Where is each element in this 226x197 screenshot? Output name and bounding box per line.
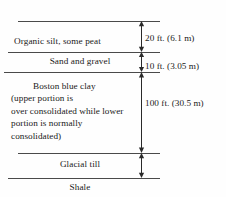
boundary-line-till-base xyxy=(8,178,160,179)
stratum-label-glacial-till: Glacial till xyxy=(0,159,160,171)
dimension-label-sand-and-gravel: 10 ft. (3.05 m) xyxy=(145,61,199,72)
soil-profile-diagram: Organic silt, some peat Sand and gravel … xyxy=(0,0,226,197)
dimension-arrow-boston-blue-clay xyxy=(137,72,146,153)
stratum-label-sand-and-gravel: Sand and gravel xyxy=(0,56,160,68)
dimension-label-boston-blue-clay: 100 ft. (30.5 m) xyxy=(145,98,204,109)
clay-text-line-3: over consolidated while lower xyxy=(11,105,146,117)
stratum-label-boston-blue-clay: Boston blue clay (upper portion is over … xyxy=(11,80,146,142)
stratum-label-organic-silt: Organic silt, some peat xyxy=(14,36,101,48)
dimension-arrow-glacial-till xyxy=(137,153,146,178)
clay-text-line-2: (upper portion is xyxy=(11,92,146,104)
clay-text-line-5: consolidated) xyxy=(11,130,146,142)
stratum-label-shale: Shale xyxy=(0,182,160,194)
clay-text-line-1: Boston blue clay xyxy=(11,80,146,92)
dimension-label-organic-silt: 20 ft. (6.1 m) xyxy=(145,33,194,44)
clay-text-line-4: portion is normally xyxy=(11,117,146,129)
